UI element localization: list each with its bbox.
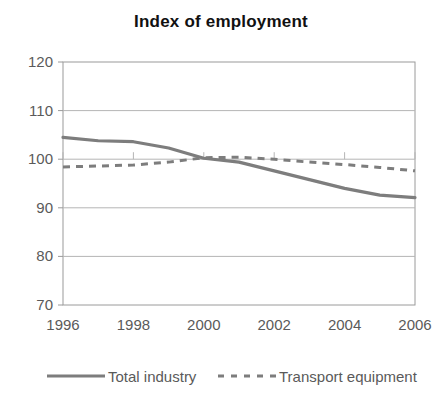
y-axis-tick-label: 70 — [36, 296, 53, 313]
legend-label: Transport equipment — [279, 368, 418, 385]
chart-plot: 120110100908070 199619982000200220042006… — [0, 0, 442, 408]
x-axis-labels: 199619982000200220042006 — [46, 316, 431, 333]
y-axis-tick-label: 90 — [36, 199, 53, 216]
chart-container: Index of employment 120110100908070 1996… — [0, 0, 442, 408]
y-axis-labels: 120110100908070 — [28, 53, 53, 313]
y-axis-tick-label: 80 — [36, 247, 53, 264]
x-axis-tick-label: 2006 — [398, 316, 431, 333]
gridlines — [63, 111, 415, 257]
x-axis-tick-label: 1998 — [117, 316, 150, 333]
y-axis-ticks — [58, 62, 63, 305]
x-axis-tick-label: 2004 — [328, 316, 361, 333]
plot-frame — [63, 62, 415, 305]
legend-label: Total industry — [108, 368, 197, 385]
x-axis-tick-label: 2000 — [187, 316, 220, 333]
y-axis-tick-label: 120 — [28, 53, 53, 70]
y-axis-tick-label: 110 — [29, 102, 53, 119]
chart-legend: Total industryTransport equipment — [47, 368, 418, 385]
y-axis-tick-label: 100 — [28, 150, 53, 167]
x-axis-tick-label: 1996 — [46, 316, 79, 333]
data-series-group — [63, 137, 415, 197]
x-axis-ticks — [63, 152, 415, 159]
x-axis-tick-label: 2002 — [258, 316, 291, 333]
